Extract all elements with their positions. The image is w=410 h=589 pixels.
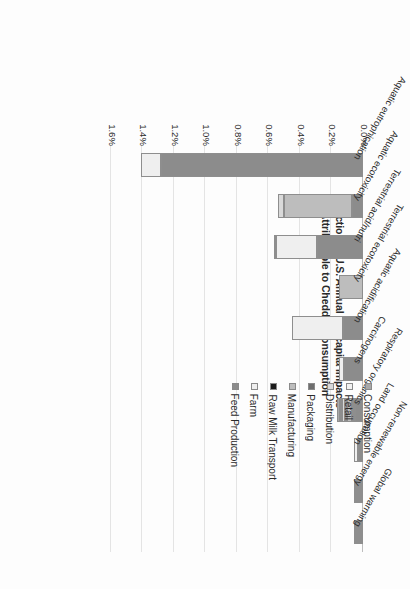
- tick-label: 0.6%: [262, 115, 276, 155]
- bar-row[interactable]: [111, 275, 363, 299]
- legend-label: Farm: [246, 394, 260, 417]
- legend-swatch-icon: [308, 383, 315, 390]
- rotated-figure-container: Fraction of U.S. Annual Per-capita Impac…: [0, 0, 410, 589]
- bar-segment[interactable]: [284, 194, 352, 218]
- legend-swatch-icon: [289, 383, 296, 390]
- legend-label: Consumption: [360, 394, 374, 453]
- legend-swatch-icon: [365, 383, 372, 390]
- legend-label: Distribution: [322, 394, 336, 444]
- legend-item[interactable]: Consumption: [358, 383, 374, 533]
- legend-item[interactable]: Retail: [339, 383, 355, 533]
- legend-item[interactable]: Packaging: [301, 383, 317, 533]
- bar-segment[interactable]: [292, 316, 342, 340]
- legend-swatch-icon: [251, 383, 258, 390]
- legend-label: Packaging: [303, 394, 317, 441]
- tick-label: 0.8%: [230, 115, 244, 155]
- legend-label: Manufacturing: [284, 394, 298, 457]
- tick-label: 0.4%: [293, 115, 307, 155]
- legend-swatch-icon: [346, 383, 353, 390]
- bar-row[interactable]: [111, 235, 363, 259]
- bar-segment[interactable]: [278, 194, 284, 218]
- legend-item[interactable]: Raw Milk Transport: [263, 383, 279, 533]
- tick-label: 1.2%: [167, 115, 181, 155]
- chart-legend: ConsumptionRetailDistributionPackagingMa…: [214, 383, 374, 533]
- legend-label: Retail: [341, 394, 355, 420]
- legend-item[interactable]: Distribution: [320, 383, 336, 533]
- bar-row[interactable]: [111, 357, 363, 381]
- legend-label: Feed Production: [227, 394, 241, 467]
- bar-segment[interactable]: [276, 235, 317, 259]
- tick-label: 0.2%: [325, 115, 339, 155]
- bar-row[interactable]: [111, 194, 363, 218]
- legend-label: Raw Milk Transport: [265, 394, 279, 480]
- bar-row[interactable]: [111, 316, 363, 340]
- legend-swatch-icon: [232, 383, 239, 390]
- chart-figure: Fraction of U.S. Annual Per-capita Impac…: [0, 0, 410, 589]
- tick-label: 1.6%: [104, 115, 118, 155]
- legend-item[interactable]: Feed Production: [225, 383, 241, 533]
- legend-item[interactable]: Farm: [244, 383, 260, 533]
- tick-label: 1.4%: [136, 115, 150, 155]
- bar-segment[interactable]: [339, 357, 344, 381]
- tick-label: 1.0%: [199, 115, 213, 155]
- bar-segment[interactable]: [141, 153, 161, 177]
- bar-segment[interactable]: [161, 153, 363, 177]
- legend-item[interactable]: Manufacturing: [282, 383, 298, 533]
- legend-swatch-icon: [327, 383, 334, 390]
- legend-swatch-icon: [270, 383, 277, 390]
- value-axis-ticks: 0.0%0.2%0.4%0.6%0.8%1.0%1.2%1.4%1.6%: [111, 108, 363, 142]
- bar-row[interactable]: [111, 153, 363, 177]
- bar-segment[interactable]: [274, 235, 276, 259]
